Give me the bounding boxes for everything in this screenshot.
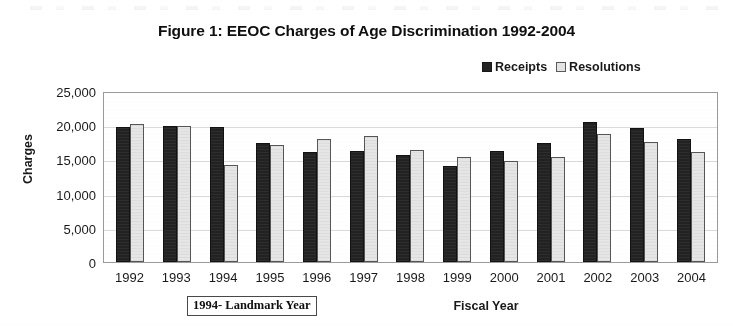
figure-eeoc-age-discrimination-chart: Figure 1: EEOC Charges of Age Discrimina… [0,0,733,326]
bar-group-2002 [574,93,621,262]
legend-swatch-resolutions-icon [556,62,566,72]
legend-item-resolutions: Resolutions [556,60,641,74]
x-axis-title: Fiscal Year [396,299,576,313]
x-axis-tick-1992: 1992 [106,270,153,285]
bar-group-1993 [154,93,201,262]
bar-resolutions-1994 [224,165,238,262]
x-axis-tick-1995: 1995 [247,270,294,285]
scan-artifact-streak [30,6,720,10]
x-axis-tick-2002: 2002 [574,270,621,285]
bar-group-1997 [340,93,387,262]
bar-resolutions-2000 [504,161,518,262]
bar-receipts-1995 [256,143,270,262]
x-axis-tick-1999: 1999 [434,270,481,285]
chart-title: Figure 1: EEOC Charges of Age Discrimina… [0,22,733,40]
bar-receipts-1996 [303,152,317,262]
legend-label-resolutions: Resolutions [569,60,641,74]
x-axis-tick-2004: 2004 [668,270,715,285]
x-axis-tick-1996: 1996 [293,270,340,285]
y-axis-tick-0: 0 [89,256,96,271]
bar-resolutions-1993 [177,126,191,262]
x-axis-tick-2001: 2001 [528,270,575,285]
bar-resolutions-1999 [457,157,471,262]
y-axis-tick-15000: 15,000 [56,153,96,168]
bar-group-1992 [107,93,154,262]
bar-resolutions-1998 [410,150,424,262]
x-axis-tick-1993: 1993 [153,270,200,285]
bar-receipts-1998 [396,155,410,262]
bar-group-1995 [247,93,294,262]
bar-resolutions-1996 [317,139,331,262]
bar-receipts-2001 [537,143,551,262]
bar-group-2001 [527,93,574,262]
bar-receipts-2002 [583,122,597,262]
bar-receipts-2003 [630,128,644,262]
x-axis-tick-2000: 2000 [481,270,528,285]
chart-legend: Receipts Resolutions [482,60,641,74]
bar-group-1996 [294,93,341,262]
legend-item-receipts: Receipts [482,60,547,74]
x-axis-tick-1994: 1994 [200,270,247,285]
x-axis-tick-1997: 1997 [340,270,387,285]
x-axis-tick-2003: 2003 [621,270,668,285]
bar-receipts-2004 [677,139,691,262]
bar-receipts-1999 [443,166,457,262]
plot-area [103,92,718,263]
y-axis-tick-20000: 20,000 [56,119,96,134]
bar-receipts-1992 [116,127,130,262]
bar-receipts-1993 [163,126,177,262]
bar-group-2003 [621,93,668,262]
bar-group-2000 [481,93,528,262]
bar-group-1999 [434,93,481,262]
bar-receipts-1997 [350,151,364,262]
legend-swatch-receipts-icon [482,62,492,72]
bar-receipts-2000 [490,151,504,262]
landmark-year-annotation: 1994- Landmark Year [187,296,317,316]
bar-group-1998 [387,93,434,262]
y-axis-tick-10000: 10,000 [56,187,96,202]
bar-series-container [104,93,717,262]
x-axis-tick-1998: 1998 [387,270,434,285]
bar-resolutions-2004 [691,152,705,262]
bar-group-1994 [200,93,247,262]
bar-resolutions-2001 [551,157,565,262]
legend-label-receipts: Receipts [495,60,547,74]
y-axis-tick-5000: 5,000 [63,221,96,236]
bar-resolutions-2003 [644,142,658,262]
x-axis-tick-labels: 1992199319941995199619971998199920002001… [103,270,718,285]
y-axis-tick-25000: 25,000 [56,85,96,100]
bar-receipts-1994 [210,127,224,262]
bar-resolutions-1995 [270,145,284,262]
bar-resolutions-1992 [130,124,144,262]
bar-resolutions-2002 [597,134,611,262]
y-axis-tick-labels: 25,00020,00015,00010,0005,0000 [28,85,96,267]
bar-resolutions-1997 [364,136,378,262]
bar-group-2004 [667,93,714,262]
